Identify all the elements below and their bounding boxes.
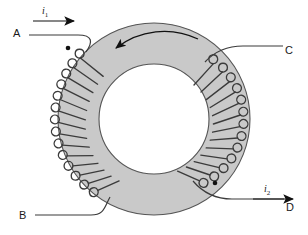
current-label-i1: i1 <box>42 6 48 19</box>
current-subscript-i1: 1 <box>45 11 49 19</box>
terminal-label-d: D <box>286 202 294 213</box>
terminal-label-a: A <box>13 28 20 39</box>
terminal-label-c: C <box>285 45 293 56</box>
current-label-i2: i2 <box>264 184 270 197</box>
toroidal-transformer-figure <box>0 0 308 235</box>
polarity-dot-secondary <box>213 181 218 186</box>
current-subscript-i2: 2 <box>267 189 271 197</box>
terminal-label-b: B <box>19 210 26 221</box>
polarity-dot-primary <box>66 46 71 51</box>
